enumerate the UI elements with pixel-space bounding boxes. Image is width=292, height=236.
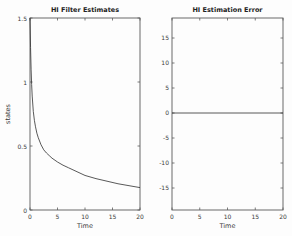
right-ytick-label: -15 — [159, 184, 169, 191]
filter-estimate-curve — [30, 18, 140, 188]
right-ytick-label: 5 — [165, 84, 169, 91]
right-ytick-label: -10 — [159, 159, 169, 166]
left-ytick-label: 1 — [23, 79, 27, 86]
left-xtick-label: 0 — [28, 213, 32, 220]
right-axes-ticks — [172, 18, 283, 210]
left-xtick-label: 10 — [81, 213, 89, 220]
right-ytick-label: 10 — [161, 59, 169, 66]
right-xtick-label: 0 — [170, 213, 174, 220]
right-xtick-label: 20 — [279, 213, 287, 220]
right-xtick-label: 5 — [198, 213, 202, 220]
left-plot: HI Filter Estimates Time states 1.5 1 0.… — [4, 6, 144, 230]
left-xaxis-label: Time — [76, 222, 93, 230]
right-plot: HI Estimation Error Time 15 10 5 0 -5 -1… — [159, 6, 287, 230]
right-plot-title: HI Estimation Error — [192, 6, 263, 14]
right-ytick-label: 15 — [161, 34, 169, 41]
plots-svg: HI Filter Estimates Time states 1.5 1 0.… — [0, 0, 292, 236]
right-ytick-label: 0 — [165, 109, 169, 116]
right-axes-box — [172, 18, 283, 210]
figure-canvas: HI Filter Estimates Time states 1.5 1 0.… — [0, 0, 292, 236]
right-xtick-label: 15 — [251, 213, 259, 220]
right-xaxis-label: Time — [219, 222, 236, 230]
left-xtick-label: 20 — [136, 213, 144, 220]
left-ytick-label: 0.5 — [17, 143, 27, 150]
right-xtick-label: 10 — [224, 213, 232, 220]
left-axes-box — [30, 18, 140, 210]
right-ytick-label: -5 — [163, 134, 169, 141]
left-xtick-label: 5 — [56, 213, 60, 220]
left-ytick-label: 0 — [23, 207, 27, 214]
left-ytick-label: 1.5 — [17, 15, 27, 22]
left-xtick-label: 15 — [109, 213, 117, 220]
left-plot-title: HI Filter Estimates — [51, 6, 119, 14]
left-plot-series — [30, 18, 140, 188]
left-axes-ticks — [30, 18, 140, 210]
left-yaxis-label: states — [4, 103, 12, 123]
